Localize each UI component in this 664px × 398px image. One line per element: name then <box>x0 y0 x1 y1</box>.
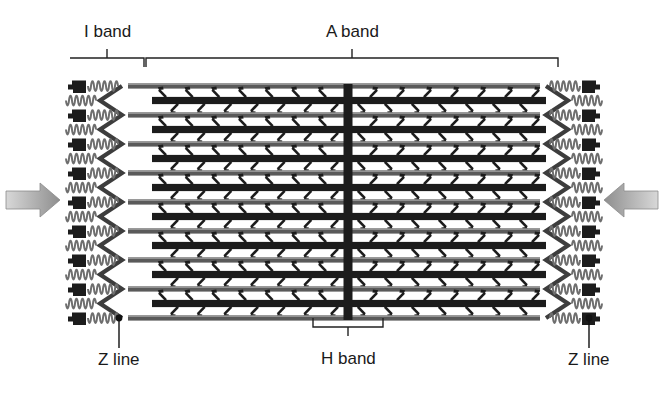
label-a-band: A band <box>326 22 379 42</box>
label-z-line-left: Z line <box>98 350 140 370</box>
label-z-line-right: Z line <box>568 350 610 370</box>
label-h-band: H band <box>321 349 376 369</box>
sarcomere-diagram-canvas <box>0 0 664 398</box>
label-i-band: I band <box>84 22 131 42</box>
m-line <box>344 84 353 320</box>
sarcomere-figure: I band A band H band Z line Z line <box>0 0 664 398</box>
